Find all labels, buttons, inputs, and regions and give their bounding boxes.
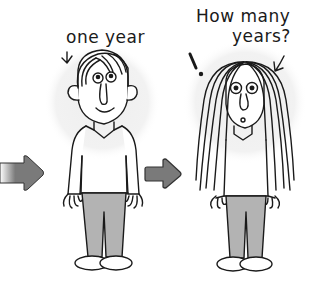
caption-one-year: one year xyxy=(66,29,145,46)
illustration: one year How many years? xyxy=(0,0,324,291)
arrow-right-icon xyxy=(145,159,181,188)
caption-years: years? xyxy=(232,28,291,45)
caption-how-many: How many xyxy=(196,8,290,25)
arrow-left-icon xyxy=(0,156,44,191)
